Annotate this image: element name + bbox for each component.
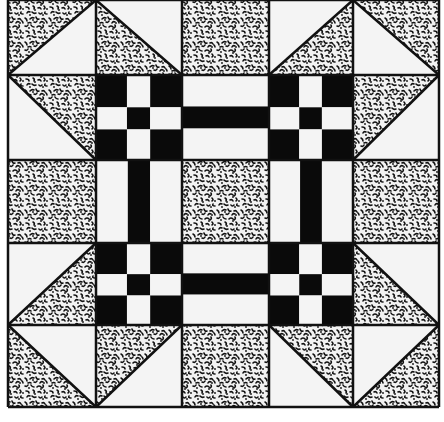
dark-patch [269,295,299,325]
quilt-cell-speckle [8,160,96,243]
quilt-cell-hst [8,0,96,75]
light-patch [269,107,299,129]
light-patch [150,274,182,295]
speckled-square [182,0,269,75]
dark-patch [299,274,322,295]
quilt-cell-ninepatch [96,75,182,160]
light-patch [127,295,150,325]
speckled-square [8,160,96,243]
quilt-cells [8,0,439,407]
quilt-cell-ninepatch [269,243,353,325]
light-bar [182,129,269,160]
light-bar [150,160,182,243]
light-bar [269,160,300,243]
dark-patch [127,107,150,129]
dark-patch [150,129,182,160]
speckled-square [182,325,269,407]
quilt-cell-ninepatch [269,75,353,160]
quilt-cell-speckle [182,160,269,243]
dark-bar [182,106,269,128]
light-bar [96,160,128,243]
light-bar [322,160,353,243]
dark-patch [322,129,353,160]
dark-patch [96,75,127,107]
dark-patch [127,274,150,295]
light-patch [269,274,299,295]
dark-patch [269,75,299,107]
quilt-cell-hst [353,243,439,325]
quilt-cell-hst [269,325,353,407]
quilt-cell-hst [8,75,96,160]
dark-patch [96,243,127,274]
quilt-cell-speckle [182,0,269,75]
quilt-cell-speckle [182,325,269,407]
quilt-cell-hst [96,0,182,75]
light-patch [96,107,127,129]
dark-patch [322,243,353,274]
quilt-cell-bars [182,243,269,325]
light-patch [96,274,127,295]
quilt-cell-hst [353,325,439,407]
dark-patch [269,129,299,160]
dark-bar [182,273,269,294]
light-patch [127,75,150,107]
quilt-cell-hst [8,325,96,407]
light-patch [322,274,353,295]
quilt-cell-hst [8,243,96,325]
quilt-cell-ninepatch [96,243,182,325]
quilt-cell-hst [353,0,439,75]
quilt-cell-bars [269,160,353,243]
light-patch [150,107,182,129]
dark-patch [96,295,127,325]
dark-patch [96,129,127,160]
light-patch [127,129,150,160]
quilt-cell-hst [96,325,182,407]
quilt-cell-bars [182,75,269,160]
light-bar [182,75,269,106]
dark-patch [150,295,182,325]
dark-patch [269,243,299,274]
light-patch [299,295,322,325]
quilt-cell-bars [96,160,182,243]
dark-patch [322,75,353,107]
dark-bar [300,160,322,243]
light-bar [182,243,269,273]
dark-patch [150,75,182,107]
quilt-cell-hst [353,75,439,160]
speckled-square [353,160,439,243]
dark-bar [128,160,150,243]
light-patch [299,75,322,107]
dark-patch [150,243,182,274]
dark-patch [299,107,322,129]
dark-patch [322,295,353,325]
quilt-block-diagram [0,0,444,422]
quilt-cell-hst [269,0,353,75]
speckled-square [182,160,269,243]
light-bar [182,295,269,325]
light-patch [127,243,150,274]
light-patch [299,243,322,274]
light-patch [322,107,353,129]
quilt-cell-speckle [353,160,439,243]
light-patch [299,129,322,160]
